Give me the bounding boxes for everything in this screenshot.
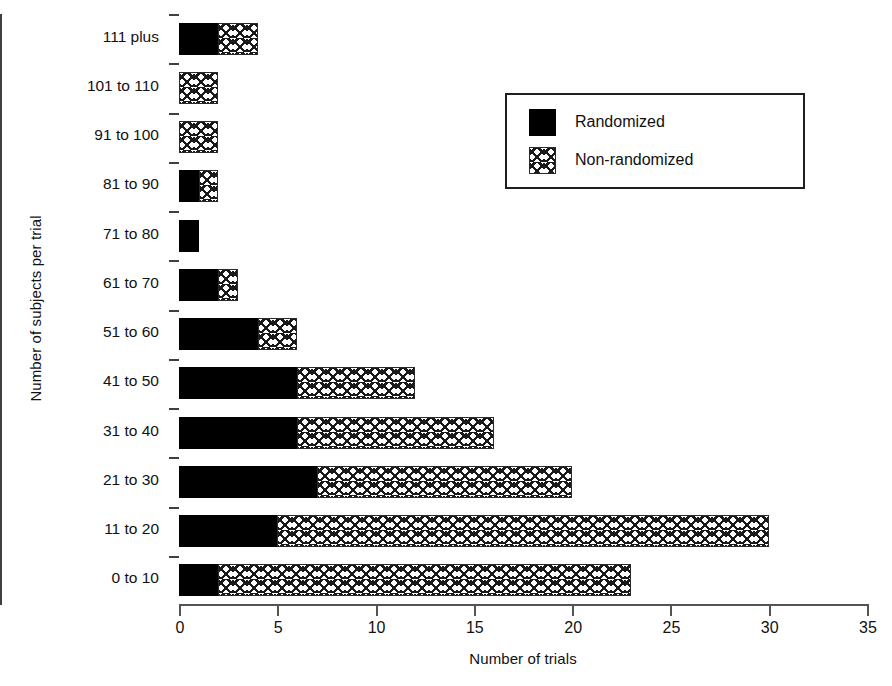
y-axis-tick xyxy=(169,63,179,65)
x-axis-tick-label: 0 xyxy=(150,619,210,637)
y-axis-category-label: 11 to 20 xyxy=(0,520,159,538)
bar-segment-non-randomized xyxy=(258,318,297,350)
bar-row xyxy=(179,367,867,399)
bar-segment-non-randomized xyxy=(179,72,218,104)
bar-segment-randomized xyxy=(179,220,199,252)
y-axis-line xyxy=(0,14,2,605)
bar-segment-randomized xyxy=(179,515,277,547)
x-axis-tick-label: 15 xyxy=(445,619,505,637)
bar-segment-randomized xyxy=(179,466,317,498)
y-axis-tick xyxy=(169,359,179,361)
x-axis-tick-label: 25 xyxy=(641,619,701,637)
x-axis-tick-label: 35 xyxy=(838,619,892,637)
legend-label-non-randomized: Non-randomized xyxy=(575,151,693,169)
bar-row xyxy=(179,417,867,449)
bar-row xyxy=(179,318,867,350)
y-axis-tick xyxy=(169,507,179,509)
legend-swatch-non-randomized xyxy=(529,147,556,174)
bar-segment-non-randomized xyxy=(218,564,631,596)
bar-segment-randomized xyxy=(179,367,297,399)
bar-segment-randomized xyxy=(179,564,218,596)
y-axis-category-label: 101 to 110 xyxy=(0,77,159,95)
x-axis-tick xyxy=(474,606,476,616)
y-axis-tick xyxy=(169,162,179,164)
x-axis-title: Number of trials xyxy=(179,650,867,667)
y-axis-title: Number of subjects per trial xyxy=(27,159,44,459)
y-axis-category-label: 41 to 50 xyxy=(0,372,159,390)
y-axis-category-label: 51 to 60 xyxy=(0,323,159,341)
y-axis-tick xyxy=(169,113,179,115)
x-axis-tick-label: 5 xyxy=(248,619,308,637)
bar-segment-non-randomized xyxy=(317,466,573,498)
bar-segment-non-randomized xyxy=(218,23,257,55)
y-axis-category-label: 0 to 10 xyxy=(0,569,159,587)
bar-segment-randomized xyxy=(179,269,218,301)
bar-segment-randomized xyxy=(179,23,218,55)
legend-item-non-randomized: Non-randomized xyxy=(529,145,693,175)
bar-row xyxy=(179,23,867,55)
x-axis-tick-label: 30 xyxy=(740,619,800,637)
y-axis-category-label: 21 to 30 xyxy=(0,471,159,489)
legend-swatch-randomized xyxy=(529,109,556,136)
x-axis-tick xyxy=(572,606,574,616)
y-axis-category-label: 61 to 70 xyxy=(0,274,159,292)
y-axis-tick xyxy=(169,260,179,262)
x-axis-tick xyxy=(769,606,771,616)
y-axis-category-label: 31 to 40 xyxy=(0,422,159,440)
y-axis-category-label: 91 to 100 xyxy=(0,126,159,144)
x-axis-tick xyxy=(179,606,181,616)
bar-row xyxy=(179,564,867,596)
legend: Randomized Non-randomized xyxy=(505,93,805,189)
x-axis-tick xyxy=(277,606,279,616)
bar-segment-non-randomized xyxy=(199,170,219,202)
y-axis-tick xyxy=(169,457,179,459)
legend-label-randomized: Randomized xyxy=(575,113,665,131)
bar-segment-non-randomized xyxy=(218,269,238,301)
bar-row xyxy=(179,466,867,498)
bar-segment-non-randomized xyxy=(297,367,415,399)
bar-segment-randomized xyxy=(179,318,258,350)
bar-segment-non-randomized xyxy=(297,417,494,449)
bar-segment-non-randomized xyxy=(179,121,218,153)
y-axis-tick xyxy=(169,408,179,410)
x-axis-tick-label: 10 xyxy=(347,619,407,637)
bar-segment-randomized xyxy=(179,417,297,449)
x-axis-tick-label: 20 xyxy=(543,619,603,637)
y-axis-tick xyxy=(169,556,179,558)
bar-segment-non-randomized xyxy=(277,515,768,547)
y-axis-category-label: 71 to 80 xyxy=(0,225,159,243)
y-axis-category-label: 111 plus xyxy=(0,28,159,46)
y-axis-category-label: 81 to 90 xyxy=(0,175,159,193)
bar-chart: Number of subjects per trial Number of t… xyxy=(0,0,892,686)
bar-row xyxy=(179,515,867,547)
bar-segment-randomized xyxy=(179,170,199,202)
y-axis-tick xyxy=(169,310,179,312)
bar-row xyxy=(179,269,867,301)
x-axis-tick xyxy=(670,606,672,616)
x-axis-tick xyxy=(376,606,378,616)
x-axis-tick xyxy=(867,606,869,616)
y-axis-tick xyxy=(169,14,179,16)
legend-item-randomized: Randomized xyxy=(529,107,665,137)
y-axis-tick xyxy=(169,211,179,213)
bar-row xyxy=(179,220,867,252)
